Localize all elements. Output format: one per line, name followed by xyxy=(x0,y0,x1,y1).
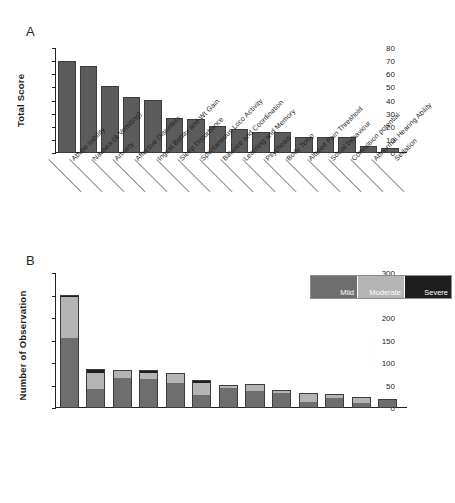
panel-b-y-tickmark-100 xyxy=(52,363,55,364)
legend-label-moderate: Moderate xyxy=(369,288,401,297)
legend-key-severe: Severe xyxy=(404,276,451,298)
panel-b-bar xyxy=(325,394,344,408)
panel-b-segment-mild xyxy=(167,383,184,407)
panel-b-bar-cell xyxy=(56,273,83,408)
panel-b-legend: MildModerateSevere xyxy=(310,275,452,299)
panel-a-x-leader-11 xyxy=(285,159,318,192)
panel-a-bar-cell xyxy=(164,48,186,153)
panel-a-y-tickmark-60 xyxy=(52,74,55,75)
panel-b-bar-cell xyxy=(109,273,136,408)
panel-b-segment-mild xyxy=(114,378,131,407)
panel-a-bar xyxy=(360,146,378,153)
panel-b-segment-moderate xyxy=(61,297,78,338)
panel-a-bar xyxy=(80,66,98,153)
panel-b-bar xyxy=(352,397,371,408)
panel-a-x-leader-6 xyxy=(177,159,210,192)
panel-a-bar-cell xyxy=(272,48,294,153)
panel-a-x-leader-2 xyxy=(91,159,124,192)
panel-a-y-tickmark-70 xyxy=(52,61,55,62)
panel-a-bar-cell xyxy=(185,48,207,153)
panel-a-y-tickmark-0 xyxy=(52,153,55,154)
panel-b-bar-cell xyxy=(215,273,242,408)
panel-a-x-leader-8 xyxy=(221,159,254,192)
panel-a-bar xyxy=(231,129,249,153)
panel-a-y-tickmark-80 xyxy=(52,48,55,49)
panel-b-segment-moderate xyxy=(87,373,104,389)
panel-a-x-leader-9 xyxy=(242,159,275,192)
panel-a-plot: 01020304050607080 xyxy=(56,48,401,153)
panel-a-bar xyxy=(317,137,335,153)
legend-key-moderate: Moderate xyxy=(357,276,404,298)
panel-a-x-leader-14 xyxy=(350,159,383,192)
panel-a-bar-cell xyxy=(315,48,337,153)
panel-a-bar-cell xyxy=(358,48,380,153)
panel-a-bar xyxy=(101,86,119,153)
panel-b-bar xyxy=(272,390,291,408)
panel-b-segment-mild xyxy=(87,389,104,407)
panel-a-bar xyxy=(144,100,162,153)
panel-b-bar-cell xyxy=(268,273,295,408)
panel-a-x-leader-1 xyxy=(70,159,103,192)
panel-a-bar xyxy=(58,61,76,153)
panel-b-y-tickmark-250 xyxy=(52,296,55,297)
legend-key-mild: Mild xyxy=(311,276,357,298)
panel-a-bar-cell xyxy=(207,48,229,153)
panel-a-bar-cell xyxy=(99,48,121,153)
panel-b-segment-moderate xyxy=(114,371,131,378)
panel-b-segment-mild xyxy=(140,379,157,407)
panel-a-bar-cell xyxy=(250,48,272,153)
panel-a-y-tickmark-50 xyxy=(52,87,55,88)
panel-b-segment-mild xyxy=(273,393,290,407)
panel-a-bar-cell xyxy=(379,48,401,153)
panel-a-bar xyxy=(123,97,141,153)
panel-a-x-leader-4 xyxy=(134,159,167,192)
panel-a-x-leader-13 xyxy=(328,159,361,192)
panel-a-y-tickmark-40 xyxy=(52,101,55,102)
panel-a-x-leader-15 xyxy=(372,159,405,192)
panel-b-bar xyxy=(60,295,79,408)
panel-a-x-leader-3 xyxy=(113,159,146,192)
panel-a-x-leader-7 xyxy=(199,159,232,192)
panel-a-y-tickmark-30 xyxy=(52,114,55,115)
panel-a-bar xyxy=(295,137,313,153)
panel-a-y-axis-title: Total Score xyxy=(15,74,26,127)
panel-a-bar-cell xyxy=(293,48,315,153)
panel-b-y-tickmark-0 xyxy=(52,408,55,409)
panel-b-letter: B xyxy=(26,253,35,268)
panel-b-segment-mild xyxy=(353,403,370,407)
panel-a-y-tickmark-20 xyxy=(52,127,55,128)
panel-b-bar xyxy=(219,385,238,408)
panel-a-bar xyxy=(381,148,399,153)
panel-b-segment-moderate xyxy=(167,374,184,382)
panel-b-bar-cell xyxy=(83,273,110,408)
panel-b-bar-cell xyxy=(242,273,269,408)
panel-a-bar-cell xyxy=(56,48,78,153)
panel-a-letter: A xyxy=(26,24,35,39)
panel-b-bar-cell xyxy=(136,273,163,408)
panel-b: B 050100150200250300 Number of Observati… xyxy=(0,245,455,503)
panel-b-segment-mild xyxy=(220,388,237,407)
panel-b-y-tickmark-200 xyxy=(52,318,55,319)
panel-a-bar-cell xyxy=(121,48,143,153)
panel-a-bar xyxy=(187,119,205,153)
panel-b-segment-mild xyxy=(300,402,317,407)
panel-a-x-leader-0 xyxy=(48,159,81,192)
panel-b-segment-moderate xyxy=(300,394,317,403)
panel-a-bar-cell xyxy=(229,48,251,153)
panel-b-bar xyxy=(299,393,318,408)
legend-label-mild: Mild xyxy=(340,288,354,297)
panel-b-bar xyxy=(166,373,185,408)
panel-a-bar xyxy=(252,132,270,153)
panel-b-bar xyxy=(113,370,132,408)
panel-b-y-tickmark-50 xyxy=(52,386,55,387)
panel-b-segment-moderate xyxy=(140,373,157,380)
panel-a-bar xyxy=(166,118,184,153)
panel-b-bar xyxy=(192,380,211,408)
panel-b-y-axis-title: Number of Observation xyxy=(17,291,28,401)
panel-b-segment-mild xyxy=(193,395,210,407)
panel-b-bar xyxy=(86,369,105,408)
panel-a-y-tickmark-10 xyxy=(52,140,55,141)
panel-b-segment-mild xyxy=(246,391,263,407)
panel-a: A 01020304050607080 Total Score Abuse li… xyxy=(0,0,455,250)
panel-a-bar xyxy=(338,137,356,153)
